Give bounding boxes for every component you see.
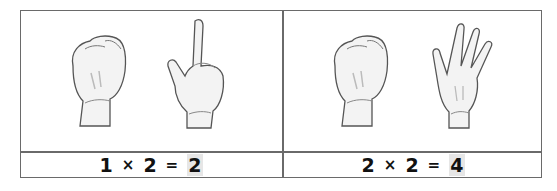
card-1-image <box>21 11 282 151</box>
four-fingers-hand-icon <box>427 16 507 131</box>
operand-a: 1 <box>100 154 114 176</box>
card-2-image <box>283 11 544 151</box>
times-sign: × <box>122 156 136 174</box>
closed-fist-icon <box>327 21 397 131</box>
equals-sign: = <box>166 156 180 174</box>
multiplication-table: 1 × 2 = 2 2 × 2 = 4 <box>20 10 542 178</box>
card-2-equation: 2 × 2 = 4 <box>283 152 544 178</box>
result: 2 <box>187 154 203 176</box>
one-finger-hand-icon <box>165 16 235 131</box>
card-1-equation: 1 × 2 = 2 <box>21 152 282 178</box>
result: 4 <box>449 154 465 176</box>
operand-b: 2 <box>405 154 419 176</box>
times-sign: × <box>384 156 398 174</box>
equals-sign: = <box>428 156 442 174</box>
closed-fist-icon <box>65 21 135 131</box>
operand-a: 2 <box>362 154 376 176</box>
operand-b: 2 <box>143 154 157 176</box>
